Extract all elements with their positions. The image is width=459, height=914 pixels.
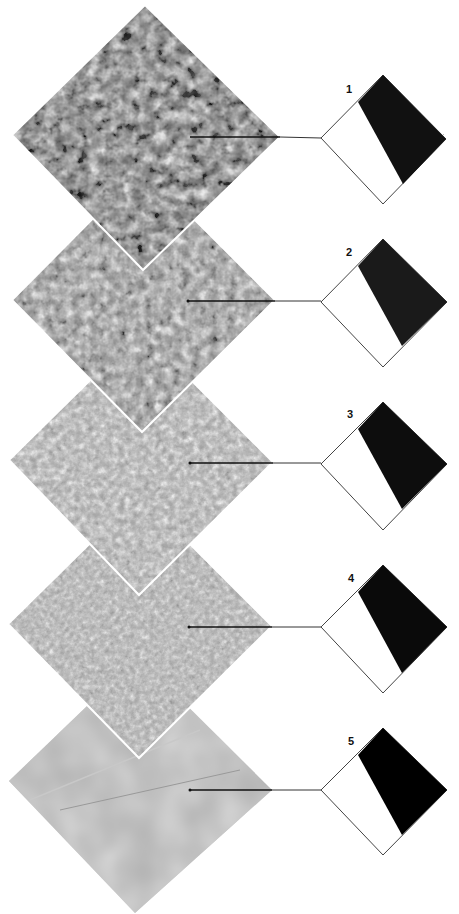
stage-label-4: 4 xyxy=(348,572,355,584)
schematic-diamond-2: 2 xyxy=(321,239,447,367)
schematic-diamond-1: 1 xyxy=(321,75,446,204)
schematic-diamond-4: 4 xyxy=(321,565,447,693)
stage-label-5: 5 xyxy=(348,735,354,747)
texture-sample-1 xyxy=(0,0,290,275)
schematic-diamond-5: 5 xyxy=(321,728,447,855)
schematic-diamond-3: 3 xyxy=(321,402,447,530)
stage-label-2: 2 xyxy=(346,246,352,258)
stage-label-3: 3 xyxy=(347,408,353,420)
stage-label-1: 1 xyxy=(346,83,352,95)
texture-diagram: 1 2 3 4 5 xyxy=(0,0,459,914)
